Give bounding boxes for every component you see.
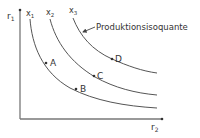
annotation-label: Produktionsisoquante [96,22,188,32]
point-c-label: C [97,71,103,81]
curve-label-x3: x3 [69,6,78,16]
x-axis-label: r2 [151,122,159,133]
diagram-svg: r1 r2 x1 x2 x3 A B C D Produktionsisoqua… [0,0,200,138]
point-a-label: A [50,58,57,68]
x-axis-arrow-icon [161,118,164,121]
curve-label-x2: x2 [46,8,54,18]
point-a-dot [45,62,48,65]
point-c-dot [93,75,96,78]
point-b-dot [75,88,78,91]
annotation-arrow-icon [83,27,95,32]
y-axis-label: r1 [7,11,15,22]
point-d-dot [111,58,114,61]
point-d-label: D [115,54,122,64]
y-axis-arrow-icon [19,9,22,12]
curve-label-x1: x1 [26,9,34,19]
point-b-label: B [80,84,86,94]
isoquant-diagram: r1 r2 x1 x2 x3 A B C D Produktionsisoqua… [0,0,200,138]
